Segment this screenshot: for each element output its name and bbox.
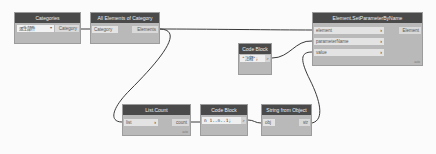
dropdown-arrow-icon: ▾ xyxy=(50,25,52,32)
input-port-parametername[interactable]: parameterName› xyxy=(314,38,384,45)
output-port-str[interactable]: str xyxy=(299,119,310,126)
node-title: All Elements of Category xyxy=(91,13,159,23)
dropdown-value: 派生部件 xyxy=(19,26,35,31)
wire-code-bottom-to-obj xyxy=(248,120,261,123)
node-title: Code Block xyxy=(201,105,247,115)
chevron-right-icon: › xyxy=(380,38,382,45)
port-label: list xyxy=(126,120,132,125)
node-element-setparameterbyname[interactable]: Element.SetParameterByName element› para… xyxy=(312,12,423,66)
node-title: Element.SetParameterByName xyxy=(313,13,422,23)
code-editor[interactable]: "注释"; xyxy=(240,55,265,62)
output-port-element[interactable]: Element xyxy=(399,27,421,34)
port-label: value xyxy=(316,50,327,55)
node-all-elements-of-category[interactable]: All Elements of Category Category Elemen… xyxy=(90,12,160,44)
wire-code-top-to-paramname xyxy=(272,41,312,58)
input-port-category[interactable]: Category xyxy=(92,26,118,33)
chevron-right-icon: › xyxy=(380,49,382,56)
port-label: parameterName xyxy=(316,39,349,44)
input-port-obj[interactable]: obj xyxy=(263,119,275,126)
lacing-label: auto xyxy=(414,60,420,64)
node-title: List.Count xyxy=(123,105,190,115)
output-port[interactable]: > xyxy=(265,55,270,62)
input-port-element[interactable]: element› xyxy=(314,27,384,34)
lacing-label: auto xyxy=(182,130,188,134)
output-port-elements[interactable]: Elements xyxy=(132,26,158,33)
node-title: Categories xyxy=(15,13,80,23)
code-editor[interactable]: n 1..n..1; xyxy=(202,117,241,124)
category-dropdown[interactable]: 派生部件 ▾ xyxy=(17,25,54,32)
node-list-count[interactable]: List.Count list› count auto xyxy=(122,104,191,136)
output-port-category[interactable]: Category xyxy=(55,25,79,32)
chevron-right-icon: › xyxy=(380,27,382,34)
port-label: element xyxy=(316,28,332,33)
output-port-count[interactable]: count xyxy=(172,119,189,126)
wire-elements-to-setparam xyxy=(160,29,312,30)
node-code-block-top[interactable]: Code Block "注释"; > xyxy=(238,43,272,75)
input-port-value[interactable]: value› xyxy=(314,49,384,56)
node-title: String from Object xyxy=(262,105,311,115)
node-code-block-bottom[interactable]: Code Block n 1..n..1; > xyxy=(200,104,248,136)
input-port-list[interactable]: list› xyxy=(124,119,158,126)
chevron-right-icon: › xyxy=(154,119,156,126)
node-title: Code Block xyxy=(239,44,271,54)
output-port[interactable]: > xyxy=(241,117,246,124)
node-categories[interactable]: Categories 派生部件 ▾ Category xyxy=(14,12,81,44)
node-string-from-object[interactable]: String from Object obj str xyxy=(261,104,312,136)
